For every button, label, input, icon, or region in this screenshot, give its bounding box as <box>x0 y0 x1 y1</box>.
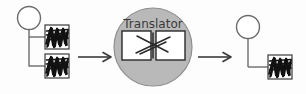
translator-label: Translator <box>122 17 182 31</box>
arrow-input-to-translator <box>78 53 111 62</box>
input-scribble-box-2 <box>45 54 69 78</box>
input-group <box>18 7 70 79</box>
output-scribble-box-1 <box>268 55 292 79</box>
translator-inner-box-right <box>156 31 185 60</box>
diagram-svg: Translator <box>0 0 306 94</box>
output-group <box>237 16 293 80</box>
input-root-circle-node <box>18 7 41 30</box>
translator-node: Translator <box>114 8 192 86</box>
translator-inner-box-left <box>122 31 151 60</box>
input-scribble-box-1 <box>45 25 69 49</box>
diagram-canvas: Translator <box>0 0 306 94</box>
output-root-circle-node <box>237 16 260 39</box>
arrow-translator-to-output <box>198 53 231 62</box>
